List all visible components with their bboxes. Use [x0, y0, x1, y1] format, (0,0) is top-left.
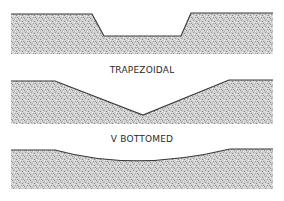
- curved-soil-fill: [11, 149, 273, 189]
- trapezoidal-soil-fill: [11, 13, 273, 54]
- channel-diagram: [0, 0, 284, 201]
- trapezoidal-section: [11, 13, 273, 54]
- v-bottomed-label: V BOTTOMED: [0, 134, 284, 144]
- v-bottomed-soil-fill: [11, 80, 273, 124]
- trapezoidal-label: TRAPEZOIDAL: [0, 65, 284, 75]
- v-bottomed-section: [11, 80, 273, 124]
- curved-section: [11, 149, 273, 189]
